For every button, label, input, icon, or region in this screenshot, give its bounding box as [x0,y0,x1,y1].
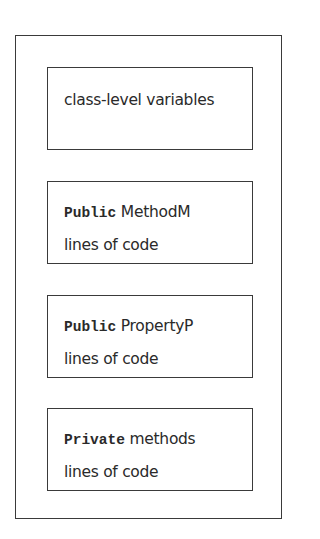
class-variables-label: class-level variables [64,90,214,110]
private-methods-name: methods [125,430,195,448]
class-variables-text: class-level variables [64,91,214,109]
method-name: MethodM [116,203,190,221]
private-methods-body-label: lines of code [64,462,158,482]
public-keyword: Public [64,205,116,221]
class-variables-block: class-level variables [47,67,253,150]
private-keyword: Private [64,432,125,448]
property-body-label: lines of code [64,349,158,369]
public-property-header: Public PropertyP [64,316,193,337]
public-keyword: Public [64,319,116,335]
public-method-header: Public MethodM [64,202,190,223]
public-method-block: Public MethodM lines of code [47,181,253,264]
property-name: PropertyP [116,317,193,335]
private-methods-header: Private methods [64,429,195,450]
method-body-label: lines of code [64,235,158,255]
public-property-block: Public PropertyP lines of code [47,295,253,378]
private-methods-block: Private methods lines of code [47,408,253,491]
